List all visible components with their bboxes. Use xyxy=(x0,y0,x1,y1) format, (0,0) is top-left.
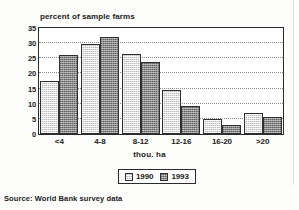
legend-item-1993: 1993 xyxy=(160,172,188,181)
bar-1990-16-20 xyxy=(203,119,222,134)
y-tick-label: 35 xyxy=(16,25,36,32)
bar-group xyxy=(39,28,80,134)
bar-1990-12-16 xyxy=(162,90,181,134)
y-tick-label: 30 xyxy=(16,40,36,47)
x-tick-label: 8-12 xyxy=(120,137,161,146)
bar-1990->20 xyxy=(244,113,263,134)
bar-1993-8-12 xyxy=(141,62,160,134)
legend: 19901993 xyxy=(118,169,196,184)
y-tick-label: 25 xyxy=(16,55,36,62)
x-axis: <44-88-1212-1616-20>20 xyxy=(39,137,283,149)
figure: percent of sample farms 05101520253035 <… xyxy=(0,0,299,210)
x-axis-title: thou. ha xyxy=(0,150,299,159)
bar-1990-<4 xyxy=(40,81,59,134)
bar-1993->20 xyxy=(263,117,282,134)
legend-label: 1990 xyxy=(136,172,153,181)
bars-layer xyxy=(39,28,283,134)
x-tick-label: 4-8 xyxy=(80,137,121,146)
y-tick-label: 5 xyxy=(16,116,36,123)
legend-item-1990: 1990 xyxy=(125,172,153,181)
y-tick-label: 0 xyxy=(16,131,36,138)
source-note: Source: World Bank survey data xyxy=(4,194,122,203)
scan-artifact xyxy=(293,0,294,185)
chart-title: percent of sample farms xyxy=(40,12,135,21)
y-axis: 05101520253035 xyxy=(16,20,36,142)
bar-1993-4-8 xyxy=(100,37,119,134)
bar-1990-4-8 xyxy=(81,44,100,134)
bar-group xyxy=(161,28,202,134)
bar-group xyxy=(80,28,121,134)
bar-1993-16-20 xyxy=(222,125,241,134)
y-tick-label: 20 xyxy=(16,70,36,77)
bar-1993-12-16 xyxy=(181,106,200,134)
x-tick-label: 12-16 xyxy=(161,137,202,146)
bar-group xyxy=(242,28,283,134)
bar-group xyxy=(202,28,243,134)
legend-swatch-1990 xyxy=(125,173,133,181)
bar-1990-8-12 xyxy=(122,54,141,134)
x-tick-label: <4 xyxy=(39,137,80,146)
x-tick-label: 16-20 xyxy=(202,137,243,146)
bar-1993-<4 xyxy=(59,55,78,134)
legend-label: 1993 xyxy=(171,172,188,181)
y-tick-label: 15 xyxy=(16,86,36,93)
y-tick-label: 10 xyxy=(16,101,36,108)
bar-group xyxy=(120,28,161,134)
legend-swatch-1993 xyxy=(160,173,168,181)
x-tick-label: >20 xyxy=(242,137,283,146)
